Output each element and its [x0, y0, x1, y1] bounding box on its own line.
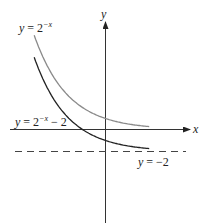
label-curve1: y = 2−x: [18, 20, 53, 35]
x-axis-label: x: [192, 122, 199, 136]
curve-2-pow-neg-x-minus-2: [34, 57, 149, 148]
y-axis-label: y: [100, 7, 107, 21]
graph: y = 2−x y = 2−x − 2 y = −2 x y: [0, 0, 204, 223]
curve-2-pow-neg-x: [34, 35, 149, 126]
label-asymptote: y = −2: [137, 155, 169, 169]
label-curve2: y = 2−x − 2: [14, 114, 67, 129]
